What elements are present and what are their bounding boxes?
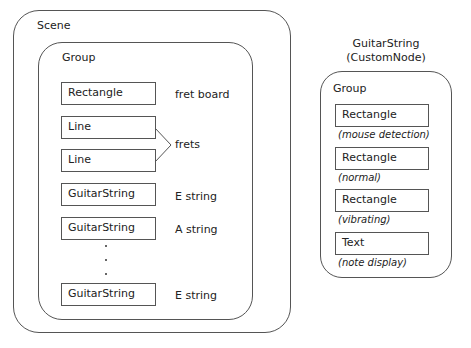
scene-title: Scene: [37, 19, 71, 32]
node-guitarstring-e-low: GuitarString: [61, 183, 156, 206]
ellipsis-dot-2: [105, 259, 107, 261]
node-line-2: Line: [61, 149, 156, 172]
custom-node-title-type: (CustomNode): [330, 51, 442, 65]
annotation-e-string-high: E string: [175, 289, 217, 302]
custom-group-title: Group: [333, 82, 367, 95]
node-line-1: Line: [61, 116, 156, 139]
node-guitarstring-a: GuitarString: [61, 217, 156, 240]
node-guitarstring-e-high: GuitarString: [61, 283, 156, 306]
note-mouse-detection: (mouse detection): [338, 129, 430, 140]
annotation-frets: frets: [175, 138, 200, 151]
note-note-display: (note display): [338, 257, 407, 268]
custom-node-title: GuitarString (CustomNode): [330, 37, 442, 65]
custom-node-title-name: GuitarString: [330, 37, 442, 51]
ellipsis-dot-3: [105, 273, 107, 275]
node-rectangle-vibrating: Rectangle: [335, 189, 429, 212]
note-normal: (normal): [338, 172, 381, 183]
annotation-a-string: A string: [175, 223, 218, 236]
node-rectangle-normal: Rectangle: [335, 147, 429, 170]
ellipsis-dot-1: [105, 245, 107, 247]
note-vibrating: (vibrating): [338, 214, 390, 225]
node-text-note-display: Text: [335, 232, 429, 255]
node-rectangle-mouse-detection: Rectangle: [335, 104, 429, 127]
annotation-e-string-low: E string: [175, 190, 217, 203]
annotation-fret-board: fret board: [175, 88, 230, 101]
scene-group-title: Group: [62, 51, 96, 64]
node-rectangle-fretboard: Rectangle: [61, 82, 156, 105]
